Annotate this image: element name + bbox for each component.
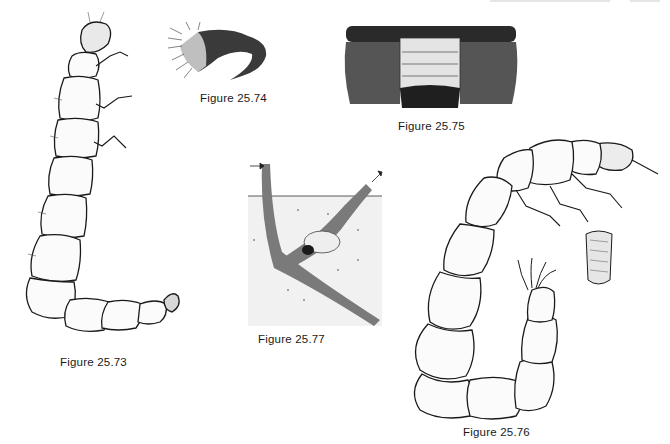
figure-25-77-illustration (248, 160, 388, 330)
segment-drawing (340, 20, 520, 110)
curved-larva-drawing (400, 130, 670, 420)
appendage-drawing (168, 22, 298, 84)
figure-25-74-illustration (168, 22, 298, 84)
figure-25-75-illustration (340, 20, 520, 110)
page-number-fragment (630, 0, 660, 2)
figure-25-76-illustration (400, 130, 670, 420)
figure-caption: Figure 25.77 (258, 333, 325, 345)
running-head-fragment (490, 0, 610, 2)
figure-caption: Figure 25.74 (200, 92, 267, 104)
burrow-drawing (248, 160, 388, 330)
figure-caption: Figure 25.73 (60, 356, 127, 368)
figure-caption: Figure 25.76 (463, 426, 530, 438)
